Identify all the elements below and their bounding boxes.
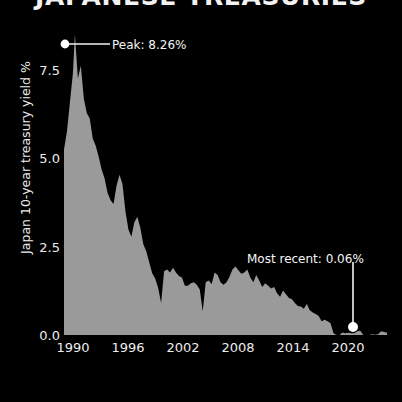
x-tick-label-2002: 2002 (153, 340, 213, 355)
x-tick-label-2020: 2020 (318, 340, 378, 355)
x-tick-label-2014: 2014 (263, 340, 323, 355)
area-chart-svg (64, 22, 394, 335)
y-tick-label-1: 2.5 (14, 240, 60, 255)
y-tick-label-3: 7.5 (14, 63, 60, 78)
page-title: JAPANESE TREASURIES (0, 0, 402, 11)
most-recent-annotation-label: Most recent: 0.06% (247, 252, 364, 266)
plot-area (64, 22, 394, 335)
peak-annotation-label: Peak: 8.26% (112, 38, 186, 52)
x-tick-label-1990: 1990 (43, 340, 103, 355)
chart-figure: JAPANESE TREASURIES Japan 10-year treasu… (0, 0, 402, 402)
yield-area-series (64, 34, 387, 335)
y-tick-label-2: 5.0 (14, 151, 60, 166)
x-tick-label-1996: 1996 (98, 340, 158, 355)
x-tick-label-2008: 2008 (208, 340, 268, 355)
